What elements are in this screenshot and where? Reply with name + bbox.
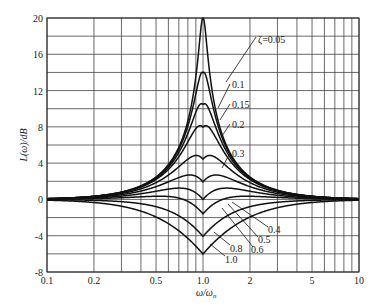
series-label: 0.1 <box>232 79 245 90</box>
y-tick-label: -4 <box>35 231 43 242</box>
leader-line <box>220 104 230 120</box>
series-label: 0.2 <box>232 119 245 130</box>
x-tick-label: 0.2 <box>88 275 101 286</box>
series-label: 1.0 <box>225 254 238 265</box>
series-label: ζ=0.05 <box>258 34 285 46</box>
x-axis-label: ω/ωn <box>196 287 217 300</box>
x-tick-label: 2 <box>247 275 252 286</box>
leader-line <box>222 124 230 136</box>
leader-line <box>218 84 230 108</box>
series-label: 0.8 <box>230 243 243 254</box>
y-tick-label: 12 <box>33 86 43 97</box>
y-tick-label: 0 <box>38 194 43 205</box>
bode-error-chart: 0.10.20.51.02510201612840-4-8 ζ=0.050.10… <box>0 0 370 304</box>
x-tick-label: 1.0 <box>197 275 210 286</box>
series-labels: ζ=0.050.10.150.20.30.40.50.60.81.0 <box>225 34 285 265</box>
series-label: 0.6 <box>251 244 264 255</box>
leader-line <box>222 208 253 247</box>
y-tick-label: 4 <box>38 158 43 169</box>
y-axis-label: L(ω)/dB <box>18 128 30 162</box>
leader-line <box>214 232 230 245</box>
x-tick-label: 10 <box>354 275 364 286</box>
y-tick-label: 16 <box>33 49 43 60</box>
y-tick-label: 20 <box>33 13 43 24</box>
series-label: 0.3 <box>232 148 245 159</box>
y-tick-label: -8 <box>35 267 43 278</box>
series-label: 0.15 <box>232 99 250 110</box>
y-tick-label: 8 <box>38 122 43 133</box>
x-tick-label: 0.5 <box>150 275 163 286</box>
leader-line <box>226 37 256 82</box>
x-tick-label: 5 <box>310 275 315 286</box>
grid <box>47 18 359 272</box>
